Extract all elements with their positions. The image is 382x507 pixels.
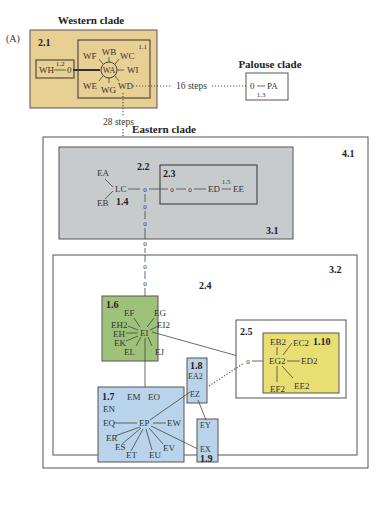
clade-3-1-label: 3.1 <box>266 225 279 236</box>
clade-1-7-label: 1.7 <box>102 391 115 402</box>
node-EL: EL <box>124 347 135 357</box>
node-EG: EG <box>154 308 166 318</box>
node-zero: 0 <box>143 263 147 271</box>
node-EB: EB <box>97 198 109 208</box>
clade-2-4-label: 2.4 <box>199 280 212 291</box>
clade-3-2-label: 3.2 <box>329 264 342 275</box>
node-PA: PA <box>267 81 278 91</box>
node-EA: EA <box>97 168 109 178</box>
node-zero: 0 <box>143 186 147 194</box>
node-WF: WF <box>83 51 97 61</box>
clade-1-4-label: 1.4 <box>116 196 129 207</box>
node-zero: 0 <box>143 220 147 228</box>
node-zero-palouse: 0 <box>250 81 255 91</box>
node-EW: EW <box>167 418 181 428</box>
node-EZ: EZ <box>190 390 200 399</box>
clade-2-1-label: 2.1 <box>38 37 51 48</box>
node-zero: 0 <box>188 186 192 194</box>
node-EF2: EF2 <box>270 384 285 394</box>
node-EA2: EA2 <box>188 372 203 381</box>
clade-diagram: (A) Western clade 2.1 1.1 WH 1.2 0 WA WB… <box>0 0 382 507</box>
clade-1-5-label: 1.5 <box>222 178 231 186</box>
node-zero-west: 0 <box>67 65 72 75</box>
node-zero: 0 <box>143 240 147 248</box>
node-WI: WI <box>127 65 139 75</box>
node-ED: ED <box>208 184 220 194</box>
western-clade-title: Western clade <box>58 14 124 26</box>
clade-1-8-label: 1.8 <box>190 360 203 371</box>
node-WH: WH <box>39 65 54 75</box>
node-EV: EV <box>163 443 175 453</box>
node-EU: EU <box>149 450 161 460</box>
node-EG2: EG2 <box>269 356 286 366</box>
node-WA: WA <box>103 66 116 75</box>
clade-2-3-label: 2.3 <box>163 168 176 179</box>
palouse-clade-title: Palouse clade <box>238 58 301 70</box>
node-EQ: EQ <box>103 418 115 428</box>
node-EJ: EJ <box>155 347 164 357</box>
steps-28-label: 28 steps <box>103 117 134 127</box>
node-WD: WD <box>118 81 133 91</box>
panel-label: (A) <box>6 33 20 45</box>
node-EM: EM <box>127 392 141 402</box>
node-EE2: EE2 <box>294 381 310 391</box>
steps-16-label: 16 steps <box>176 81 207 91</box>
clade-1-1-label: 1.1 <box>138 43 147 51</box>
node-zero: 0 <box>170 186 174 194</box>
node-EY: EY <box>200 421 211 430</box>
node-EB2: EB2 <box>270 337 286 347</box>
node-EC2: EC2 <box>293 338 309 348</box>
node-EE: EE <box>233 184 244 194</box>
clade-2-2-label: 2.2 <box>137 161 150 172</box>
node-zero: 0 <box>143 280 147 288</box>
node-EP: EP <box>139 418 150 428</box>
node-EF: EF <box>124 308 135 318</box>
clade-1-9-label: 1.9 <box>200 453 213 464</box>
node-EI: EI <box>140 328 149 338</box>
clade-1-3-label: 1.3 <box>257 91 266 99</box>
node-EN: EN <box>103 404 115 414</box>
node-LC: LC <box>115 184 127 194</box>
node-WC: WC <box>120 51 135 61</box>
node-WB: WB <box>102 47 117 57</box>
clade-1-10-label: 1.10 <box>313 336 331 347</box>
clade-2-5-label: 2.5 <box>240 326 253 337</box>
node-EI2: EI2 <box>157 320 170 330</box>
node-WE: WE <box>83 81 97 91</box>
node-ET: ET <box>126 450 137 460</box>
clade-4-1-label: 4.1 <box>342 148 355 159</box>
clade-3-1-box <box>59 147 293 239</box>
node-zero: 0 <box>143 203 147 211</box>
node-ES: ES <box>115 442 126 452</box>
clade-1-2-label: 1.2 <box>56 60 65 68</box>
eastern-clade-title: Eastern clade <box>132 123 196 135</box>
node-WG: WG <box>101 85 116 95</box>
node-ED2: ED2 <box>301 356 318 366</box>
clade-1-6-label: 1.6 <box>106 299 119 310</box>
node-EO: EO <box>148 392 160 402</box>
node-zero: 0 <box>246 358 250 366</box>
